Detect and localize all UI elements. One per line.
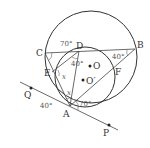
label-d: D [76,41,83,51]
segment-ab [70,49,135,106]
angle-label-a-tangent: 40° [40,102,52,110]
angle-arc-e [58,70,59,76]
label-b: B [137,40,144,50]
label-f: F [115,67,121,77]
label-c: C [36,48,43,58]
diagram-canvas: C D B E F O O′ A Q P 70° 40° 40° 70° 40°… [0,0,150,148]
angle-arc-c [49,53,52,60]
angle-label-b: 40° [112,53,124,61]
point-p [108,124,111,127]
angle-label-c: 70° [60,40,72,48]
geometry-diagram: C D B E F O O′ A Q P 70° 40° 40° 70° 40°… [0,0,150,148]
label-q: Q [24,90,31,100]
angle-arc-a-top [67,98,71,99]
label-o-prime: O′ [86,76,95,86]
angle-label-a-right: 70° [79,100,91,108]
point-o-prime [82,79,85,82]
label-o: O [93,61,100,71]
var-label-e: x [62,73,66,81]
angle-label-d: 40° [71,60,83,68]
label-a: A [62,109,70,119]
angle-arc-d [72,57,78,59]
var-label-a: x [67,89,71,97]
point-o [89,65,92,68]
label-e: E [44,68,51,78]
label-p: P [103,128,109,138]
